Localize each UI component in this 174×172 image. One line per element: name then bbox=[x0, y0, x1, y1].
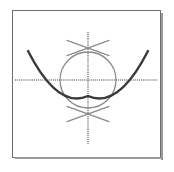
figure-root: Circle and parabola with coordinate axes bbox=[0, 0, 174, 172]
frame-shadow-right bbox=[161, 13, 163, 160]
plot-canvas bbox=[12, 10, 161, 158]
bottom-cross-mark bbox=[67, 106, 109, 121]
